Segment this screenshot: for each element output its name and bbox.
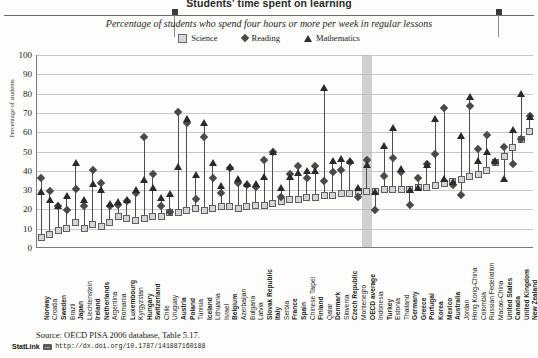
x-tick-label: Bulgaria — [249, 296, 256, 320]
data-column[interactable] — [157, 55, 166, 247]
value-connector — [229, 167, 230, 208]
data-column[interactable] — [97, 55, 106, 247]
data-column[interactable] — [354, 55, 363, 247]
data-column[interactable] — [500, 55, 509, 247]
data-column[interactable] — [123, 55, 132, 247]
data-column[interactable] — [243, 55, 252, 247]
data-column[interactable] — [183, 55, 192, 247]
data-column[interactable] — [303, 55, 312, 247]
data-column[interactable] — [294, 55, 303, 247]
data-column[interactable] — [174, 55, 183, 247]
data-column[interactable] — [320, 55, 329, 247]
reading-marker — [71, 185, 79, 193]
reading-marker — [191, 195, 199, 203]
science-marker — [286, 196, 293, 203]
data-column[interactable] — [431, 55, 440, 247]
data-column[interactable] — [388, 55, 397, 247]
reading-marker — [388, 154, 396, 162]
data-column[interactable] — [277, 55, 286, 247]
data-column[interactable] — [226, 55, 235, 247]
data-column[interactable] — [423, 55, 432, 247]
data-column[interactable] — [465, 55, 474, 247]
data-column[interactable] — [63, 55, 72, 247]
y-tick-label: 40 — [6, 166, 32, 176]
science-marker — [321, 192, 328, 199]
science-marker — [338, 190, 345, 197]
data-column[interactable] — [80, 55, 89, 247]
legend-item-reading[interactable]: Reading — [242, 33, 280, 43]
data-column[interactable] — [414, 55, 423, 247]
data-column[interactable] — [114, 55, 123, 247]
data-column[interactable] — [191, 55, 200, 247]
x-tick-label: Israel — [223, 304, 230, 320]
science-marker — [89, 221, 96, 228]
data-column[interactable] — [328, 55, 337, 247]
data-column[interactable] — [525, 55, 534, 247]
data-column[interactable] — [380, 55, 389, 247]
data-column[interactable] — [131, 55, 140, 247]
reading-marker — [380, 171, 388, 179]
data-column[interactable] — [88, 55, 97, 247]
data-column[interactable] — [166, 55, 175, 247]
data-column[interactable] — [337, 55, 346, 247]
data-column[interactable] — [54, 55, 63, 247]
statlink-badge-icon: ··· — [43, 344, 53, 350]
x-tick-label: Liechtenstein — [86, 281, 93, 320]
data-column[interactable] — [491, 55, 500, 247]
data-column[interactable] — [140, 55, 149, 247]
value-connector — [92, 171, 93, 225]
reading-marker — [465, 102, 473, 110]
data-column[interactable] — [508, 55, 517, 247]
x-tick-label: OECD average — [369, 274, 376, 320]
data-column[interactable] — [405, 55, 414, 247]
science-marker — [432, 182, 439, 189]
data-column[interactable] — [200, 55, 209, 247]
x-tick-label: Slovenia — [343, 295, 350, 320]
mathematics-marker — [46, 196, 54, 203]
x-tick-label: Montenegro — [360, 285, 367, 320]
data-column[interactable] — [46, 55, 55, 247]
chart-legend: ScienceReadingMathematics — [0, 33, 538, 43]
data-column[interactable] — [517, 55, 526, 247]
data-column[interactable] — [260, 55, 269, 247]
x-tick-label: United Kingdom — [523, 269, 530, 320]
data-column[interactable] — [363, 55, 372, 247]
data-column[interactable] — [286, 55, 295, 247]
reading-marker — [208, 173, 216, 181]
science-marker — [132, 217, 139, 224]
data-column[interactable] — [71, 55, 80, 247]
data-column[interactable] — [217, 55, 226, 247]
science-marker — [423, 184, 430, 191]
data-column[interactable] — [251, 55, 260, 247]
mathematics-marker — [303, 167, 311, 174]
reading-marker — [260, 156, 268, 164]
legend-item-mathematics[interactable]: Mathematics — [304, 33, 360, 43]
data-column[interactable] — [474, 55, 483, 247]
data-column[interactable] — [148, 55, 157, 247]
data-column[interactable] — [106, 55, 115, 247]
legend-item-science[interactable]: Science — [178, 33, 217, 43]
data-column[interactable] — [448, 55, 457, 247]
science-marker — [475, 171, 482, 178]
mathematics-marker — [37, 188, 45, 195]
data-column[interactable] — [345, 55, 354, 247]
science-marker — [398, 186, 405, 193]
mathematics-marker — [517, 90, 525, 97]
mathematics-marker — [269, 148, 277, 155]
science-marker — [329, 192, 336, 199]
data-column[interactable] — [234, 55, 243, 247]
data-column[interactable] — [208, 55, 217, 247]
data-column[interactable] — [371, 55, 380, 247]
statlink-url[interactable]: http://dx.doi.org/10.1787/141887160188 — [55, 343, 205, 350]
data-column[interactable] — [268, 55, 277, 247]
y-tick-label: 100 — [6, 50, 32, 60]
data-column[interactable] — [311, 55, 320, 247]
data-column[interactable] — [483, 55, 492, 247]
x-tick-label: Portugal — [428, 293, 435, 320]
x-tick-label: Italy — [274, 307, 281, 320]
data-column[interactable] — [440, 55, 449, 247]
data-column[interactable] — [397, 55, 406, 247]
science-marker — [389, 186, 396, 193]
data-column[interactable] — [37, 55, 46, 247]
data-column[interactable] — [457, 55, 466, 247]
